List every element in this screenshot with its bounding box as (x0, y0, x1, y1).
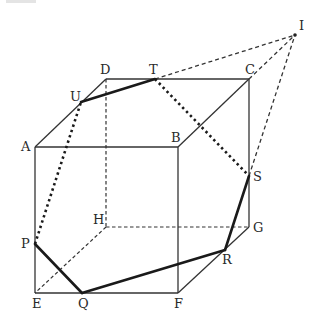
section-edge-ut (81, 79, 155, 102)
extension-line-si (249, 35, 295, 176)
vertex-label-c: C (245, 62, 255, 77)
vertex-label-q: Q (78, 296, 89, 311)
vertex-label-a: A (20, 139, 31, 154)
vertex-points (293, 33, 297, 37)
hidden-edges (35, 79, 249, 293)
vertex-label-e: E (32, 296, 42, 311)
vertex-label-r: R (222, 252, 233, 267)
vertex-label-s: S (253, 169, 262, 184)
cube-section-diagram: ABCDEFGHPQRSTUI (0, 0, 323, 329)
vertex-label-b: B (171, 130, 181, 145)
vertex-labels: ABCDEFGHPQRSTUI (20, 18, 304, 311)
vertex-label-f: F (174, 296, 183, 311)
section-edge-rq (82, 250, 225, 293)
visible-edges (35, 79, 249, 293)
vertex-label-u: U (70, 89, 81, 104)
point-i-marker (293, 33, 297, 37)
vertex-label-h: H (93, 212, 104, 227)
edge-bc (178, 79, 249, 147)
vertex-label-i: I (299, 18, 304, 33)
section-visible-edges (35, 79, 249, 293)
vertex-label-d: D (100, 62, 110, 77)
extension-lines (155, 35, 295, 176)
extension-line-ti (155, 35, 295, 79)
vertex-label-p: P (21, 236, 30, 251)
vertex-label-t: T (149, 62, 158, 77)
vertex-label-g: G (253, 220, 263, 235)
section-hidden-edge-ts (155, 79, 249, 176)
hidden-edge-he (35, 227, 106, 293)
section-hidden-edge-pu (35, 102, 81, 244)
section-hidden-edges (35, 79, 249, 244)
